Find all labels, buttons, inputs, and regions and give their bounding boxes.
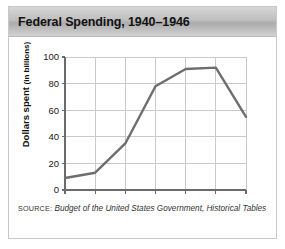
svg-text:40: 40 bbox=[48, 131, 59, 142]
page-title: Federal Spending, 1940–1946 bbox=[18, 15, 190, 29]
source-label: SOURCE: bbox=[18, 204, 52, 213]
figure-card: Federal Spending, 1940–1946 Dollars spen… bbox=[8, 6, 277, 239]
svg-text:1943: 1943 bbox=[145, 195, 166, 197]
y-axis-tick-labels: 020406080100 bbox=[43, 51, 59, 195]
x-axis-tick-labels: 1940194119421943194419451946 bbox=[54, 195, 256, 197]
svg-text:1945: 1945 bbox=[205, 195, 226, 197]
svg-text:80: 80 bbox=[48, 78, 59, 89]
chart-title-band: Federal Spending, 1940–1946 bbox=[9, 7, 276, 37]
svg-text:100: 100 bbox=[43, 51, 59, 62]
svg-text:0: 0 bbox=[54, 184, 59, 195]
svg-text:1944: 1944 bbox=[175, 195, 196, 197]
svg-text:20: 20 bbox=[48, 158, 59, 169]
svg-text:1946: 1946 bbox=[235, 195, 256, 197]
svg-text:60: 60 bbox=[48, 105, 59, 116]
source-note: SOURCE: Budget of the United States Gove… bbox=[18, 203, 268, 215]
svg-text:1940: 1940 bbox=[54, 195, 75, 197]
source-text: Budget of the United States Government, … bbox=[54, 204, 266, 213]
plot-region: Dollars spent (in billions) 020406080100… bbox=[9, 37, 276, 197]
line-chart: 020406080100 194019411942194319441945194… bbox=[9, 37, 278, 197]
svg-text:1941: 1941 bbox=[85, 195, 106, 197]
svg-text:1942: 1942 bbox=[115, 195, 136, 197]
